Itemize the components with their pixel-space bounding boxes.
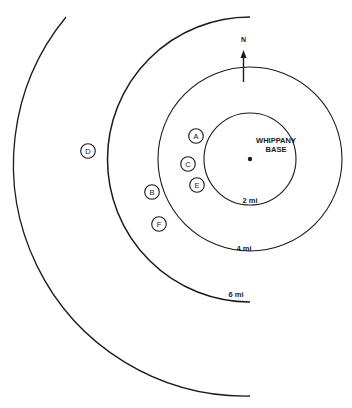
- site-label-a: A: [193, 132, 198, 141]
- ring-4mi-label: 4 mi: [236, 244, 251, 253]
- site-label-d: D: [85, 147, 91, 156]
- base-label-line1: WHIPPANY: [256, 136, 296, 145]
- site-marker-d: D: [81, 144, 96, 159]
- site-marker-c: C: [181, 157, 196, 172]
- north-label: N: [241, 36, 246, 43]
- base-label-line2: BASE: [266, 145, 287, 154]
- ring-2mi-label: 2 mi: [242, 196, 257, 205]
- site-label-f: F: [157, 220, 162, 229]
- range-ring-diagram: WHIPPANY BASE N 2 mi 4 mi 6 mi A B C D E…: [0, 0, 352, 408]
- ring-6mi-arc: [108, 17, 251, 302]
- site-marker-e: E: [190, 178, 205, 193]
- base-point-marker: [248, 157, 252, 161]
- ring-6mi-label: 6 mi: [228, 290, 243, 299]
- site-label-e: E: [194, 181, 199, 190]
- site-marker-a: A: [189, 129, 204, 144]
- site-marker-f: F: [152, 217, 167, 232]
- site-label-b: B: [149, 188, 154, 197]
- site-marker-b: B: [145, 185, 160, 200]
- north-arrow-icon: [241, 50, 247, 82]
- site-label-c: C: [185, 160, 191, 169]
